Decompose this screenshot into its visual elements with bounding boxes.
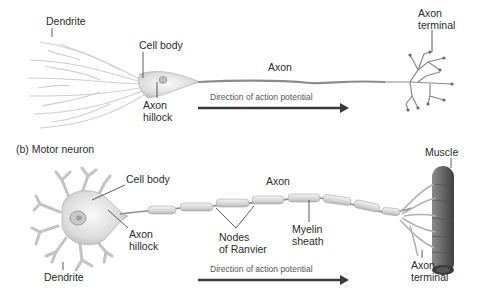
panel-a-axon-terminal — [383, 52, 452, 110]
neuron-diagram: Dendrite Cell body Axon Axon hillock Axo… — [0, 0, 478, 295]
label-axon-hillock-b-line2: hillock — [129, 240, 158, 252]
panel-a-soma — [138, 72, 200, 98]
panel-a-axon — [198, 81, 385, 84]
label-nodes-of-ranvier-line2: of Ranvier — [219, 243, 267, 255]
label-dendrite-a: Dendrite — [46, 15, 86, 27]
muscle-fiber — [432, 166, 454, 275]
label-axon-b: Axon — [266, 175, 290, 187]
label-myelin-sheath-line2: sheath — [292, 235, 324, 247]
label-axon-terminal-b-line1: Axon — [411, 259, 435, 271]
label-muscle: Muscle — [425, 146, 458, 158]
label-axon-hillock-b-line1: Axon — [129, 228, 153, 240]
label-myelin-sheath-line1: Myelin — [292, 223, 322, 235]
label-axon-terminal-a-line1: Axon — [418, 7, 442, 19]
panel-a-direction-arrow — [198, 103, 349, 113]
label-direction-b: Direction of action potential — [210, 264, 313, 274]
label-direction-a: Direction of action potential — [210, 92, 313, 102]
label-axon-a: Axon — [268, 61, 292, 73]
label-axon-terminal-b-line2: terminal — [411, 271, 448, 283]
label-nodes-of-ranvier-line1: Nodes — [219, 231, 249, 243]
label-axon-hillock-a-line2: hillock — [143, 111, 172, 123]
panel-a-dendrites — [28, 42, 152, 128]
panel-b-axon-terminal — [400, 184, 436, 256]
panel-b-myelin-segments — [148, 194, 400, 216]
label-axon-terminal-a-line2: terminal — [418, 19, 455, 31]
label-cell-body-a: Cell body — [139, 39, 183, 51]
label-axon-hillock-a-line1: Axon — [143, 99, 167, 111]
label-cell-body-b: Cell body — [126, 173, 170, 185]
panel-b-title: (b) Motor neuron — [16, 143, 94, 155]
panel-b-direction-arrow — [198, 275, 349, 285]
label-dendrite-b: Dendrite — [44, 271, 84, 283]
panel-a-leader-lines — [52, 28, 432, 98]
